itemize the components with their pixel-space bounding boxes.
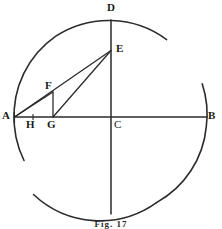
vertex-label-H: H	[26, 119, 35, 130]
diagram-canvas	[0, 0, 222, 229]
vertex-label-F: F	[45, 80, 52, 91]
geometry-figure: D E F A H G C B Fig. 17	[0, 0, 222, 229]
arc-upper-left	[14, 20, 167, 122]
arc-bottom	[34, 195, 157, 221]
vertex-label-G: G	[47, 119, 56, 130]
figure-caption: Fig. 17	[0, 219, 222, 229]
vertex-label-D: D	[107, 2, 115, 13]
vertex-label-B: B	[208, 110, 215, 121]
arc-right	[157, 84, 208, 203]
arc-stub-left-lower	[14, 113, 24, 161]
vertex-label-A: A	[2, 110, 10, 121]
figure-caption-clip: Fig. 17	[0, 219, 222, 229]
vertex-label-C: C	[114, 119, 121, 130]
vertex-label-E: E	[116, 43, 123, 54]
chord-A-to-F	[15, 92, 54, 117]
